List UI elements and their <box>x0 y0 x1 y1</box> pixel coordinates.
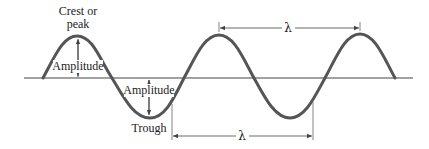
sine-wave <box>43 34 395 118</box>
crest-label-line1: Crest or <box>59 4 97 18</box>
wavelength-upper-label: λ <box>284 21 292 35</box>
amplitude-upper-label: Amplitude <box>52 59 103 73</box>
wave-diagram: Crest or peak Amplitude Amplitude Trough… <box>0 0 429 149</box>
crest-label-line2: peak <box>67 17 90 31</box>
wave-diagram-svg: Crest or peak Amplitude Amplitude Trough… <box>0 0 429 149</box>
wavelength-lower-label: λ <box>238 129 246 143</box>
trough-label: Trough <box>132 121 167 135</box>
amplitude-lower-label: Amplitude <box>123 83 174 97</box>
